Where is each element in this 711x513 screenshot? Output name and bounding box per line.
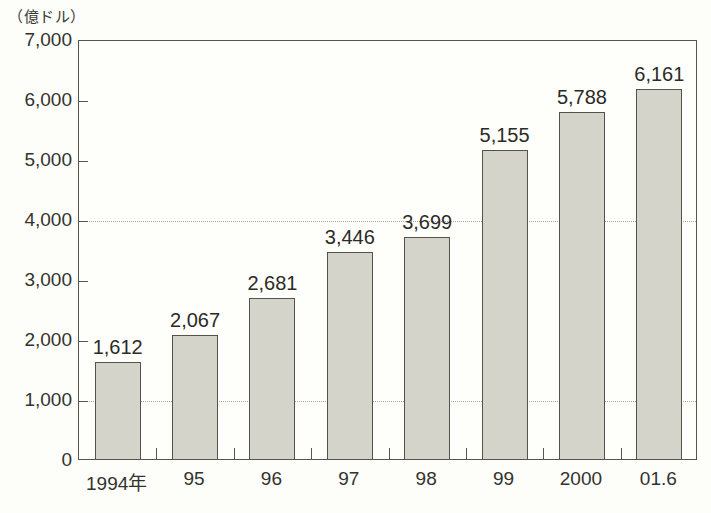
y-axis-tick-mark: [79, 401, 88, 402]
bar: [559, 112, 605, 459]
y-axis-unit-label: （億ドル）: [8, 5, 86, 26]
bar-value-label: 3,699: [372, 211, 482, 234]
x-axis-tick-mark: [466, 448, 467, 459]
bar: [482, 150, 528, 459]
bar-value-label: 6,161: [604, 63, 711, 86]
y-axis-tick-label: 1,000: [4, 389, 72, 411]
x-axis-tick-mark: [234, 448, 235, 459]
bar: [327, 252, 373, 459]
bar: [404, 237, 450, 459]
bar-value-label: 2,681: [217, 272, 327, 295]
x-axis-tick-mark: [543, 448, 544, 459]
bar-chart-figure: （億ドル） 01,0002,0003,0004,0005,0006,0007,0…: [0, 0, 711, 513]
bar: [172, 335, 218, 459]
x-axis-tick-mark: [389, 448, 390, 459]
y-axis-tick-mark: [79, 281, 88, 282]
x-axis-tick-mark: [311, 448, 312, 459]
bar: [249, 298, 295, 459]
bar: [95, 362, 141, 459]
bar: [636, 89, 682, 459]
y-axis-tick-mark: [79, 161, 88, 162]
y-axis-tick-label: 6,000: [4, 89, 72, 111]
x-axis-tick-mark: [156, 448, 157, 459]
y-axis-tick-mark: [79, 221, 88, 222]
y-axis-label-group: 01,0002,0003,0004,0005,0006,0007,000: [0, 40, 72, 460]
y-axis-tick-label: 3,000: [4, 269, 72, 291]
bar-value-label: 5,788: [527, 86, 637, 109]
y-axis-tick-label: 5,000: [4, 149, 72, 171]
y-axis-tick-label: 7,000: [4, 29, 72, 51]
bar-value-label: 5,155: [450, 124, 560, 147]
x-axis-label-group: 1994年9596979899200001.6: [78, 468, 697, 502]
bar-value-label: 1,612: [63, 336, 173, 359]
plot-area: 1,6122,0672,6813,4463,6995,1555,7886,161: [78, 40, 697, 460]
x-axis-tick-mark: [621, 448, 622, 459]
y-axis-tick-label: 4,000: [4, 209, 72, 231]
bar-value-label: 2,067: [140, 309, 250, 332]
y-axis-tick-mark: [79, 101, 88, 102]
x-axis-tick-label: 01.6: [603, 468, 711, 490]
